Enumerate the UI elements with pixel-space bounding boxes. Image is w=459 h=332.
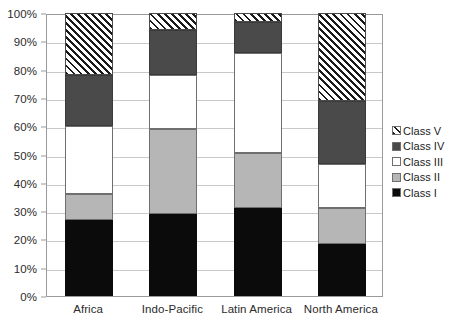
bar-segment-class1 <box>149 214 197 296</box>
bar-segment-class1 <box>318 244 366 296</box>
bar-group <box>65 15 113 296</box>
y-tick-label: 10% <box>14 263 37 275</box>
y-tick-label: 80% <box>14 65 37 77</box>
x-tick-label: North America <box>304 303 378 315</box>
bar-segment-class5 <box>234 13 282 21</box>
bar-segment-class1 <box>65 220 113 296</box>
y-tick-label: 60% <box>14 121 37 133</box>
bar-group <box>149 15 197 296</box>
legend-swatch-class2-icon <box>392 173 401 182</box>
x-tick-label: Latin America <box>221 303 292 315</box>
plot-area <box>46 14 383 297</box>
bar-stack <box>149 15 197 296</box>
legend-swatch-class4-icon <box>392 142 401 151</box>
bar-group <box>234 15 282 296</box>
bar-segment-class4 <box>234 22 282 53</box>
bar-stack <box>318 15 366 296</box>
legend-label: Class II <box>403 171 440 183</box>
bar-segment-class3 <box>149 75 197 129</box>
bar-segment-class2 <box>318 208 366 243</box>
y-tick-label: 0% <box>20 291 37 303</box>
legend-swatch-class5-icon <box>392 126 401 135</box>
legend-item-class1: Class I <box>392 185 458 201</box>
legend-swatch-class3-icon <box>392 157 401 166</box>
y-tick-label: 50% <box>14 150 37 162</box>
bar-segment-class5 <box>149 13 197 30</box>
legend-swatch-class1-icon <box>392 188 401 197</box>
bar-segment-class2 <box>149 129 197 214</box>
legend-label: Class IV <box>403 140 444 152</box>
y-tick-label: 20% <box>14 234 37 246</box>
x-tick-label: Indo-Pacific <box>142 303 203 315</box>
bar-segment-class5 <box>318 13 366 101</box>
x-tick-label: Africa <box>73 303 103 315</box>
bar-segment-class2 <box>234 153 282 208</box>
bar-segment-class2 <box>65 194 113 219</box>
bar-segment-class1 <box>234 208 282 296</box>
y-tick-label: 100% <box>7 8 37 20</box>
bar-segment-class3 <box>234 53 282 153</box>
legend-item-class4: Class IV <box>392 139 458 155</box>
bar-segment-class4 <box>318 101 366 165</box>
y-tick-label: 40% <box>14 178 37 190</box>
bar-group <box>318 15 366 296</box>
y-tick-label: 30% <box>14 206 37 218</box>
legend-label: Class III <box>403 156 443 168</box>
bar-stack <box>65 15 113 296</box>
y-tick-label: 90% <box>14 36 37 48</box>
legend-label: Class I <box>403 187 437 199</box>
bar-stack <box>234 15 282 296</box>
legend-item-class5: Class V <box>392 123 458 139</box>
legend-item-class2: Class II <box>392 170 458 186</box>
x-axis: AfricaIndo-PacificLatin AmericaNorth Ame… <box>46 303 383 323</box>
y-tick-label: 70% <box>14 93 37 105</box>
bar-segment-class4 <box>149 30 197 75</box>
legend-item-class3: Class III <box>392 154 458 170</box>
legend-label: Class V <box>403 125 441 137</box>
bar-segment-class3 <box>65 126 113 194</box>
y-axis: 0%10%20%30%40%50%60%70%80%90%100% <box>0 14 46 297</box>
stacked-bar-chart: 0%10%20%30%40%50%60%70%80%90%100% Africa… <box>0 0 459 332</box>
bar-segment-class4 <box>65 75 113 126</box>
chart-legend: Class VClass IVClass IIIClass IIClass I <box>392 123 458 201</box>
bar-segment-class3 <box>318 164 366 208</box>
bar-segment-class5 <box>65 13 113 75</box>
